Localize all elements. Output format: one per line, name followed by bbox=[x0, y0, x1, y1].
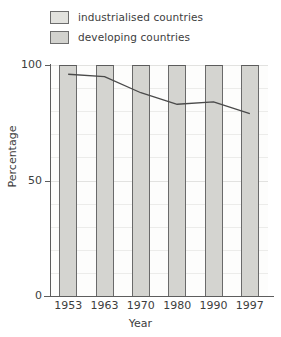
y-tick-label: 50 bbox=[28, 174, 42, 187]
y-tick: 100 bbox=[0, 58, 42, 70]
line-path bbox=[68, 74, 250, 113]
x-tick-label-1953: 1953 bbox=[48, 299, 88, 312]
overlay-line-series bbox=[50, 65, 268, 296]
y-tick-label: 100 bbox=[21, 58, 42, 71]
y-tick-label: 0 bbox=[35, 289, 42, 302]
legend-label-industrialised: industrialised countries bbox=[78, 11, 203, 23]
y-axis-line bbox=[50, 64, 51, 297]
x-tick-label-1980: 1980 bbox=[157, 299, 197, 312]
plot-area bbox=[50, 65, 268, 296]
legend-item-developing[interactable]: developing countries bbox=[50, 28, 203, 46]
legend-label-developing: developing countries bbox=[78, 31, 190, 43]
x-tick-label-1963: 1963 bbox=[85, 299, 125, 312]
y-tick-mark bbox=[45, 65, 50, 66]
chart-container: industrialised countries developing coun… bbox=[0, 0, 281, 337]
x-axis-line bbox=[44, 296, 274, 297]
x-axis-title: Year bbox=[0, 317, 281, 330]
y-tick: 0 bbox=[0, 289, 42, 301]
legend-swatch-developing bbox=[50, 31, 69, 44]
legend-swatch-industrialised bbox=[50, 11, 69, 24]
x-tick-label-1970: 1970 bbox=[121, 299, 161, 312]
y-tick-mark bbox=[45, 181, 50, 182]
y-tick-mark bbox=[45, 296, 50, 297]
x-tick-label-1997: 1997 bbox=[230, 299, 270, 312]
chart-legend: industrialised countries developing coun… bbox=[50, 8, 203, 48]
y-axis-title: Percentage bbox=[6, 97, 19, 217]
x-tick-label-1990: 1990 bbox=[194, 299, 234, 312]
legend-item-industrialised[interactable]: industrialised countries bbox=[50, 8, 203, 26]
